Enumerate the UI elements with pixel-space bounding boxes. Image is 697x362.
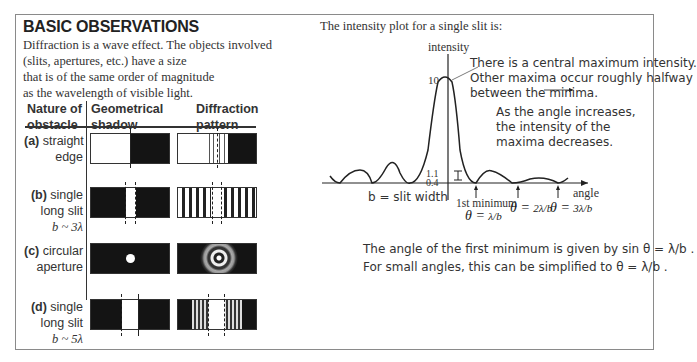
plot-intro: The intensity plot for a single slit is:: [320, 18, 502, 34]
pattern-slit-3lambda: [177, 187, 257, 218]
svg-text:angle: angle: [573, 186, 599, 200]
slit-width-label: b = slit width: [368, 190, 448, 205]
row-label-a: (a) straight edge: [24, 133, 83, 165]
svg-text:θ = 2λ/b: θ = 2λ/b: [510, 200, 553, 215]
slit-marker: [138, 294, 139, 336]
annotation-central-max: There is a central maximum intensity. Ot…: [470, 56, 697, 101]
pattern-slit-5lambda: [177, 299, 257, 330]
slit-marker: [221, 182, 222, 224]
shadow-circular: [90, 243, 170, 274]
svg-text:0.4: 0.4: [426, 177, 439, 188]
slit-marker: [224, 294, 225, 336]
row-label-b: (b) single long slit b ~ 3λ: [24, 187, 83, 235]
header-pattern: Diffraction pattern: [196, 101, 259, 133]
svg-text:10: 10: [428, 74, 440, 86]
row-label-c: (c) circular aperture: [24, 243, 83, 275]
slit-marker: [125, 182, 126, 224]
header-divider: [25, 126, 256, 128]
formula-text: The angle of the first minimum is given …: [363, 240, 694, 276]
edge-marker: [130, 128, 131, 168]
annotation-angle: As the angle increases, the intensity of…: [496, 105, 636, 150]
column-divider: [86, 101, 87, 300]
svg-text:θ = 3λ/b: θ = 3λ/b: [550, 200, 593, 215]
pattern-circular: [177, 243, 257, 274]
header-shadow: Geometrical shadow: [91, 101, 163, 133]
slit-marker: [208, 294, 209, 336]
edge-marker: [217, 128, 218, 168]
slit-marker: [121, 294, 122, 336]
section-title: BASIC OBSERVATIONS: [23, 18, 199, 36]
svg-text:θ = λ/b: θ = λ/b: [465, 208, 502, 220]
intro-text: Diffraction is a wave effect. The object…: [23, 37, 272, 101]
slit-marker: [135, 182, 136, 224]
header-obstacle: Nature of obstacle: [27, 101, 82, 133]
svg-text:intensity: intensity: [428, 40, 469, 54]
row-label-d: (d) single long slit b ~ 5λ: [24, 299, 83, 347]
shadow-slit-3lambda: [90, 187, 170, 218]
shadow-slit-5lambda: [90, 299, 170, 330]
slit-marker: [212, 182, 213, 224]
